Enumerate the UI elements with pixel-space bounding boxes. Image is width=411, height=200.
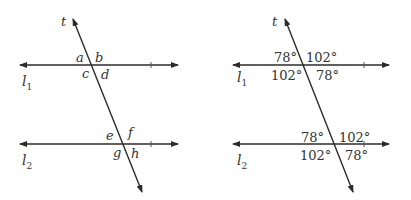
angle-l2-bottom-right: 78° xyxy=(345,148,368,163)
transversal-t xyxy=(285,19,353,192)
angle-l1-top-right: 102° xyxy=(306,50,337,65)
line-l2-label: l2 xyxy=(22,152,32,171)
line-l1-label: l1 xyxy=(22,73,32,92)
angle-d: d xyxy=(101,67,109,82)
line-l2-label: l2 xyxy=(237,152,247,171)
angle-a: a xyxy=(76,50,84,65)
angle-l2-bottom-left: 102° xyxy=(300,148,331,163)
transversal-t xyxy=(73,19,142,192)
angle-l2-top-right: 102° xyxy=(339,130,370,145)
angle-h: h xyxy=(131,146,139,161)
angle-l1-top-left: 78° xyxy=(274,50,297,65)
right-diagram: t l1 l2 78° 102° 102° 78° 78° 102° 102° … xyxy=(233,14,389,192)
angle-b: b xyxy=(95,50,103,65)
angle-g: g xyxy=(113,145,121,160)
parallel-lines-figure: t l1 l2 a b c d e f g h t l1 l2 78° 102°… xyxy=(0,0,411,200)
transversal-label: t xyxy=(61,14,67,29)
angle-l2-top-left: 78° xyxy=(301,130,324,145)
angle-f: f xyxy=(127,125,135,140)
angle-c: c xyxy=(82,66,90,81)
angle-l1-bottom-right: 78° xyxy=(316,68,339,83)
left-diagram: t l1 l2 a b c d e f g h xyxy=(20,14,178,192)
angle-e: e xyxy=(106,128,114,143)
transversal-label: t xyxy=(272,14,278,29)
line-l1-label: l1 xyxy=(237,69,247,88)
angle-l1-bottom-left: 102° xyxy=(271,68,302,83)
